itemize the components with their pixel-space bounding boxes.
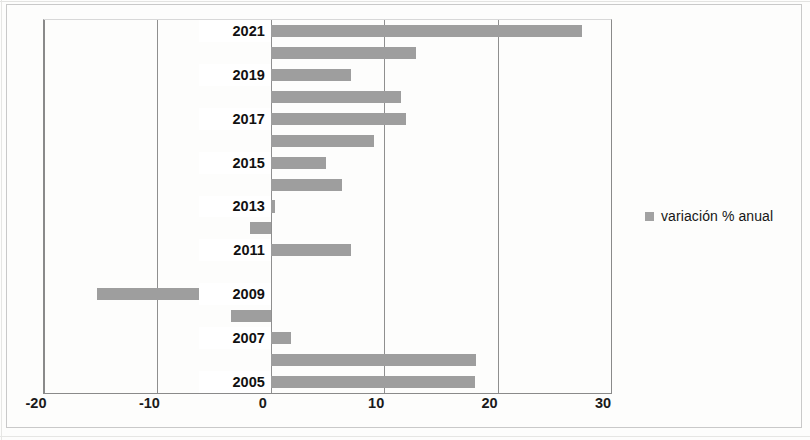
category-label-2017: 2017 xyxy=(199,108,271,130)
category-label-2009: 2009 xyxy=(199,283,271,305)
scan-edge-left xyxy=(1,0,2,440)
bar-row xyxy=(44,266,611,278)
category-label-2021: 2021 xyxy=(199,20,271,42)
bar-row xyxy=(44,310,611,322)
bar-row xyxy=(44,179,611,191)
category-label-2005: 2005 xyxy=(199,371,271,393)
category-label-text: 2005 xyxy=(233,374,265,390)
x-tick-label-20: 20 xyxy=(482,395,498,411)
category-label-text: 2009 xyxy=(233,286,265,302)
bar-row xyxy=(44,288,611,300)
bar-row xyxy=(44,91,611,103)
bar-row xyxy=(44,376,611,388)
scan-edge-top xyxy=(0,1,810,2)
bar-row xyxy=(44,135,611,147)
x-tick-label-0: 0 xyxy=(259,395,267,411)
category-label-text: 2013 xyxy=(233,198,265,214)
legend-label: variación % anual xyxy=(661,208,773,224)
category-label-2015: 2015 xyxy=(199,152,271,174)
x-tick-label--10: -10 xyxy=(139,395,160,411)
bar-2013[interactable] xyxy=(271,200,276,212)
scan-edge-bottom xyxy=(0,436,810,437)
bar-row xyxy=(44,200,611,212)
bar-row xyxy=(44,47,611,59)
category-label-text: 2015 xyxy=(233,155,265,171)
plot-area: 202120192017201520132011200920072005 xyxy=(43,19,612,394)
bar-2015[interactable] xyxy=(271,157,327,169)
bar-row xyxy=(44,222,611,234)
x-tick-label--20: -20 xyxy=(26,395,47,411)
category-label-text: 2021 xyxy=(233,23,265,39)
bar-2019[interactable] xyxy=(271,69,352,81)
chart-legend: variación % anual xyxy=(645,208,773,224)
bar-row xyxy=(44,69,611,81)
bar-2021[interactable] xyxy=(271,25,582,37)
category-label-text: 2007 xyxy=(233,330,265,346)
legend-swatch-icon xyxy=(645,212,654,221)
bar-row xyxy=(44,113,611,125)
bar-row xyxy=(44,354,611,366)
bar-2014[interactable] xyxy=(271,179,342,191)
category-label-2007: 2007 xyxy=(199,327,271,349)
bar-2006[interactable] xyxy=(271,354,476,366)
bar-2016[interactable] xyxy=(271,135,374,147)
category-label-text: 2011 xyxy=(233,242,264,258)
bar-series xyxy=(44,20,611,393)
category-label-2013: 2013 xyxy=(199,196,271,218)
bar-row xyxy=(44,25,611,37)
bar-2008[interactable] xyxy=(231,310,271,322)
gridline-30 xyxy=(611,20,612,393)
bar-row xyxy=(44,244,611,256)
bar-2005[interactable] xyxy=(271,376,475,388)
x-tick-label-10: 10 xyxy=(368,395,384,411)
category-label-2019: 2019 xyxy=(199,64,271,86)
bar-2012[interactable] xyxy=(250,222,270,234)
x-tick-label-30: 30 xyxy=(595,395,611,411)
bar-2018[interactable] xyxy=(271,91,401,103)
category-label-2011: 2011 xyxy=(199,239,271,261)
x-axis-tick-labels: -20-100102030 xyxy=(6,395,802,421)
bar-2017[interactable] xyxy=(271,113,406,125)
bar-2020[interactable] xyxy=(271,47,416,59)
bar-row xyxy=(44,157,611,169)
category-label-text: 2019 xyxy=(233,67,265,83)
bar-2007[interactable] xyxy=(271,332,291,344)
bar-2011[interactable] xyxy=(271,244,352,256)
bar-row xyxy=(44,332,611,344)
category-label-text: 2017 xyxy=(233,111,265,127)
